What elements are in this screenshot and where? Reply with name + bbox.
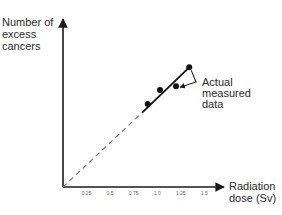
x-tick-label: 0.75: [129, 190, 139, 196]
annotation-label: Actual measured data: [202, 76, 254, 110]
y-axis-label-line: excess: [2, 28, 37, 40]
x-axis-label-line: Radiation: [229, 180, 275, 192]
y-axis-label-line: cancers: [2, 40, 41, 52]
extrapolation-dashed-line: [63, 113, 142, 187]
x-tick-label: 0.25: [82, 190, 92, 196]
x-axis-label-line: dose (Sv): [229, 192, 276, 204]
x-tick-label: 1.25: [176, 190, 186, 196]
y-axis-label-line: Number of: [2, 16, 54, 28]
data-point: [157, 87, 163, 93]
annotation-line: data: [202, 98, 224, 110]
y-axis-label: Number of excess cancers: [2, 16, 56, 52]
x-tick-label: 1.0: [154, 190, 161, 196]
x-tick-label: 1.5: [201, 190, 208, 196]
data-point: [145, 101, 151, 107]
data-point: [173, 83, 179, 89]
x-axis-label: Radiation dose (Sv): [229, 180, 279, 204]
x-tick-label: 0.5: [107, 190, 114, 196]
chart: Number of excess cancers Radiation dose …: [0, 0, 282, 215]
data-point: [186, 64, 192, 70]
